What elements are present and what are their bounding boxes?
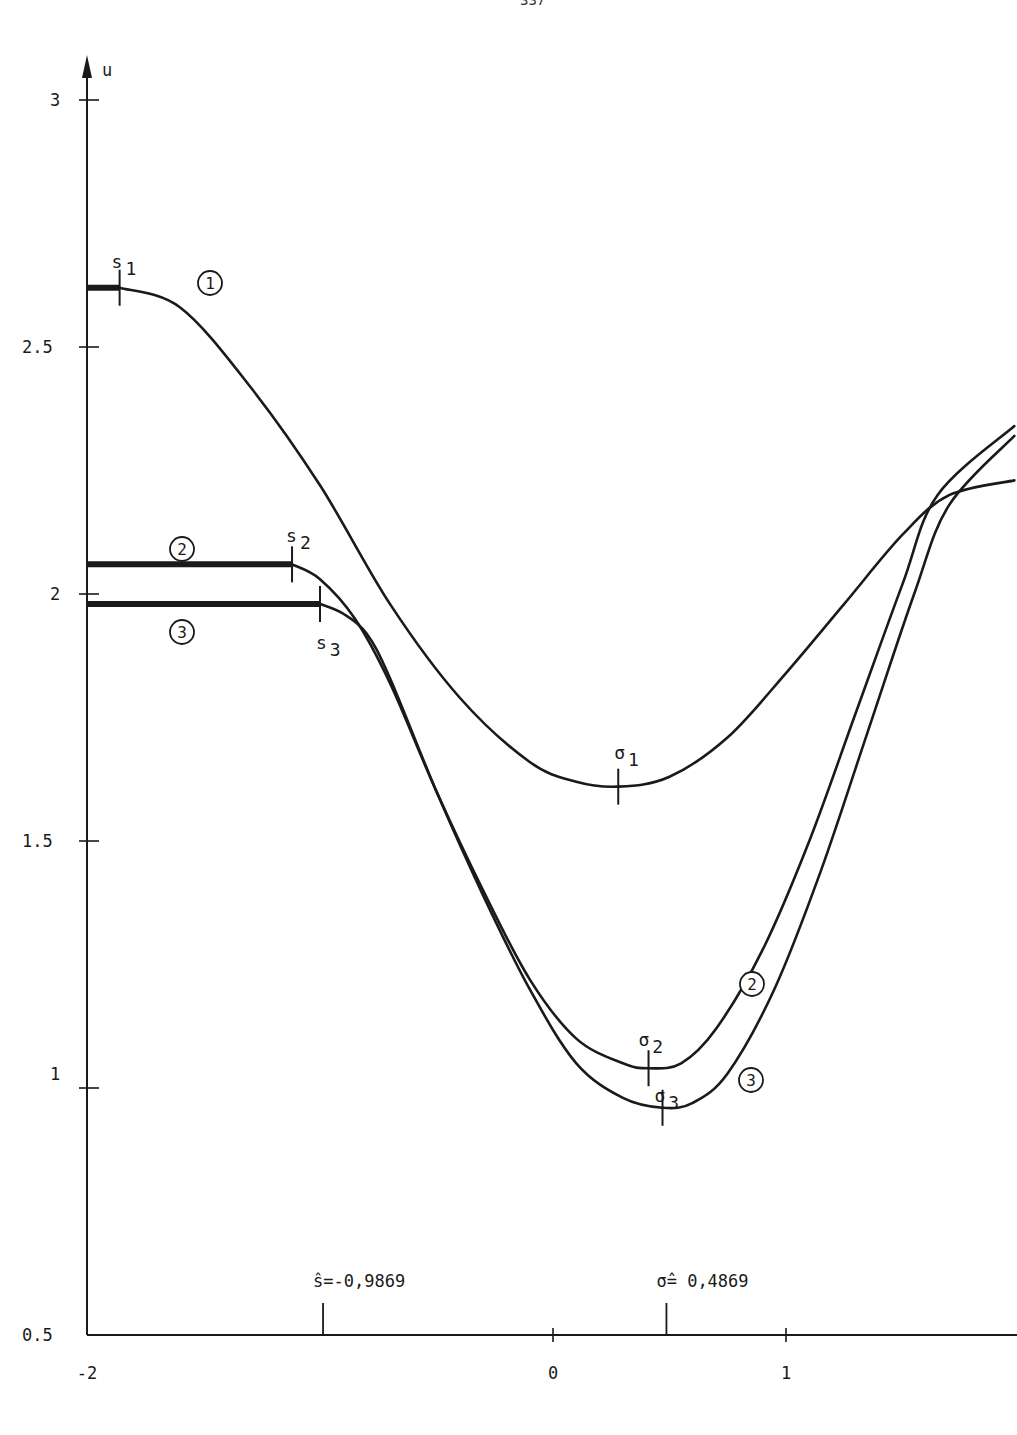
sigma-hat-label: σ̂= 0,4869	[656, 1271, 748, 1291]
y-tick-label: 1.5	[22, 831, 53, 851]
curve-1	[120, 288, 1015, 787]
line-chart: u32.521.510.5-201ŝ=-0,9869σ̂= 0,4869s1σ1…	[0, 0, 1017, 1435]
y-tick-label: 1	[50, 1064, 60, 1084]
s-hat-label: ŝ=-0,9869	[313, 1271, 405, 1291]
x-tick-label: -2	[77, 1363, 97, 1383]
x-tick-label: 1	[781, 1363, 791, 1383]
curve-2	[292, 426, 1014, 1068]
label-s3: s3	[316, 632, 341, 660]
curve-3	[320, 436, 1014, 1108]
y-tick-label: 2.5	[22, 337, 53, 357]
series-2-badge-number: 2	[177, 540, 187, 559]
y-tick-label: 3	[50, 90, 60, 110]
y-tick-label: 0.5	[22, 1325, 53, 1345]
y-tick-label: 2	[50, 584, 60, 604]
axes	[79, 55, 1017, 1342]
label-s1: s1	[112, 251, 137, 279]
label-s2: s2	[286, 525, 311, 553]
series-3-badge-number: 3	[177, 623, 187, 642]
y-axis-label: u	[102, 60, 112, 80]
label-σ2: σ2	[639, 1029, 664, 1057]
label-σ1: σ1	[614, 742, 639, 770]
curves	[87, 270, 1014, 1126]
series-2-badge-number: 2	[747, 975, 757, 994]
series-3-badge-number: 3	[746, 1071, 756, 1090]
series-1-badge-number: 1	[205, 274, 215, 293]
x-tick-label: 0	[548, 1363, 558, 1383]
y-axis-arrow-icon	[82, 55, 92, 78]
